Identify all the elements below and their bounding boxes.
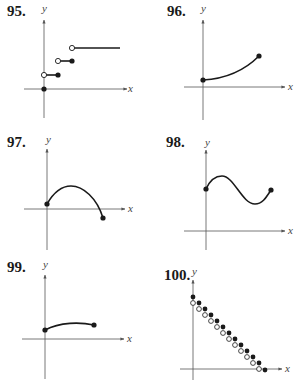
closed-dots xyxy=(191,295,268,373)
graph-98 xyxy=(184,150,285,250)
open-dots xyxy=(191,301,262,372)
graph-99 xyxy=(22,275,124,379)
graph-95 xyxy=(24,20,127,118)
graph-97 xyxy=(24,149,125,250)
graph-100 xyxy=(180,280,282,380)
graph-96 xyxy=(184,20,285,120)
exercise-graphs xyxy=(0,0,304,382)
